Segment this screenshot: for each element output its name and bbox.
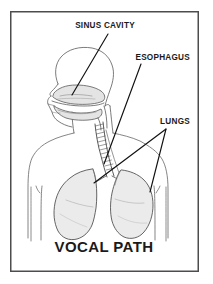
label-sinus-cavity: SINUS CAVITY [75, 21, 135, 30]
label-esophagus: ESOPHAGUS [135, 53, 190, 62]
vocal-path-figure: SINUS CAVITY ESOPHAGUS LUNGS VOCAL PATH [0, 0, 213, 284]
diagram-title: VOCAL PATH [54, 238, 153, 255]
label-lungs: LUNGS [160, 117, 190, 126]
